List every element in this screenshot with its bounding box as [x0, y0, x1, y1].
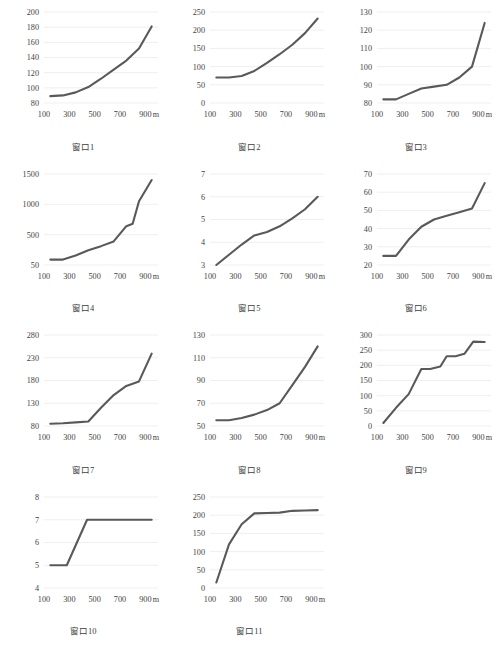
y-tick-label: 50: [197, 565, 205, 574]
panel-caption: 窗口1: [0, 140, 166, 152]
x-tick-label: 100: [370, 433, 382, 442]
y-tick-label: 5: [35, 561, 39, 570]
line-chart-9: 050100150200250300100300500700900m: [333, 323, 499, 465]
x-tick-label: 500: [255, 271, 267, 280]
x-tick-label: 100: [370, 110, 382, 119]
line-chart-1: 80100120140160180200100300500700900m: [0, 0, 166, 142]
chart-panel-5: 34567100300500700900m窗口5: [166, 162, 332, 324]
line-chart-11: 050100150200250100300500700900m: [166, 485, 332, 627]
panel-caption: 窗口5: [166, 301, 332, 313]
series-line: [217, 196, 318, 264]
x-tick-label: 900: [139, 594, 151, 603]
x-tick-label: 700: [446, 433, 458, 442]
y-tick-label: 130: [359, 8, 371, 17]
x-axis-unit-label: m: [153, 110, 160, 119]
y-tick-label: 60: [363, 188, 371, 197]
y-tick-label: 100: [359, 63, 371, 72]
series-line: [217, 19, 318, 78]
x-tick-label: 700: [280, 594, 292, 603]
x-tick-label: 100: [38, 594, 50, 603]
chart-panel-10: 45678100300500700900m窗口10: [0, 485, 166, 646]
y-tick-label: 110: [193, 354, 205, 363]
x-tick-label: 500: [255, 433, 267, 442]
x-tick-label: 300: [396, 433, 408, 442]
chart-panel-1: 80100120140160180200100300500700900m窗口1: [0, 0, 166, 162]
x-axis-unit-label: m: [485, 433, 492, 442]
y-tick-label: 100: [27, 84, 39, 93]
x-tick-label: 300: [229, 433, 241, 442]
chart-panel-9: 050100150200250300100300500700900m窗口9: [333, 323, 499, 485]
x-axis-unit-label: m: [319, 594, 326, 603]
panel-caption: 窗口7: [0, 463, 166, 475]
y-tick-label: 7: [35, 515, 39, 524]
x-tick-label: 900: [472, 110, 484, 119]
y-tick-label: 50: [31, 260, 39, 269]
y-tick-label: 70: [363, 170, 371, 179]
x-axis-unit-label: m: [319, 433, 326, 442]
chart-panel-4: 5050010001500100300500700900m窗口4: [0, 162, 166, 324]
y-tick-label: 130: [193, 331, 205, 340]
y-tick-label: 150: [193, 529, 205, 538]
y-tick-label: 7: [201, 170, 205, 179]
chart-panel-8: 507090110130100300500700900m窗口8: [166, 323, 332, 485]
y-tick-label: 200: [193, 26, 205, 35]
y-tick-label: 100: [193, 547, 205, 556]
y-tick-label: 50: [363, 206, 371, 215]
x-tick-label: 900: [305, 271, 317, 280]
x-tick-label: 900: [139, 433, 151, 442]
y-tick-label: 0: [201, 99, 205, 108]
y-tick-label: 250: [359, 346, 371, 355]
panel-caption: 窗口9: [333, 463, 499, 475]
chart-panel-3: 8090100110120130100300500700900m窗口3: [333, 0, 499, 162]
x-tick-label: 900: [139, 110, 151, 119]
x-tick-label: 100: [38, 110, 50, 119]
series-line: [217, 510, 318, 582]
x-tick-label: 100: [204, 433, 216, 442]
y-tick-label: 120: [359, 26, 371, 35]
panel-caption: 窗口8: [166, 463, 332, 475]
y-tick-label: 4: [35, 583, 39, 592]
x-tick-label: 500: [421, 271, 433, 280]
y-tick-label: 500: [27, 230, 39, 239]
y-tick-label: 80: [31, 422, 39, 431]
series-line: [50, 180, 151, 260]
y-tick-label: 0: [367, 422, 371, 431]
y-tick-label: 90: [197, 377, 205, 386]
x-tick-label: 700: [446, 271, 458, 280]
y-tick-label: 6: [35, 538, 39, 547]
line-chart-8: 507090110130100300500700900m: [166, 323, 332, 465]
series-line: [383, 183, 484, 256]
y-tick-label: 4: [201, 238, 205, 247]
line-chart-7: 80130180230280100300500700900m: [0, 323, 166, 465]
x-tick-label: 100: [204, 594, 216, 603]
x-tick-label: 300: [63, 433, 75, 442]
y-tick-label: 250: [193, 8, 205, 17]
panel-caption: 窗口4: [0, 301, 166, 313]
chart-panel-7: 80130180230280100300500700900m窗口7: [0, 323, 166, 485]
y-tick-label: 120: [27, 69, 39, 78]
y-tick-label: 250: [193, 493, 205, 502]
y-tick-label: 3: [201, 260, 205, 269]
y-tick-label: 1000: [23, 200, 39, 209]
x-tick-label: 100: [370, 271, 382, 280]
y-tick-label: 100: [359, 392, 371, 401]
x-tick-label: 500: [421, 110, 433, 119]
y-tick-label: 90: [363, 81, 371, 90]
y-tick-label: 80: [31, 99, 39, 108]
series-line: [383, 23, 484, 99]
x-tick-label: 500: [421, 433, 433, 442]
x-tick-label: 700: [280, 271, 292, 280]
y-tick-label: 1500: [23, 170, 39, 179]
y-tick-label: 30: [363, 242, 371, 251]
x-tick-label: 500: [89, 433, 101, 442]
x-tick-label: 500: [255, 594, 267, 603]
x-tick-label: 100: [204, 271, 216, 280]
y-tick-label: 5: [201, 215, 205, 224]
x-axis-unit-label: m: [319, 271, 326, 280]
panel-caption: 窗口11: [166, 624, 332, 636]
series-line: [50, 26, 151, 96]
panel-caption: 窗口10: [0, 624, 166, 636]
chart-panel-11: 050100150200250100300500700900m窗口11: [166, 485, 332, 646]
y-tick-label: 150: [359, 377, 371, 386]
x-tick-label: 500: [89, 271, 101, 280]
